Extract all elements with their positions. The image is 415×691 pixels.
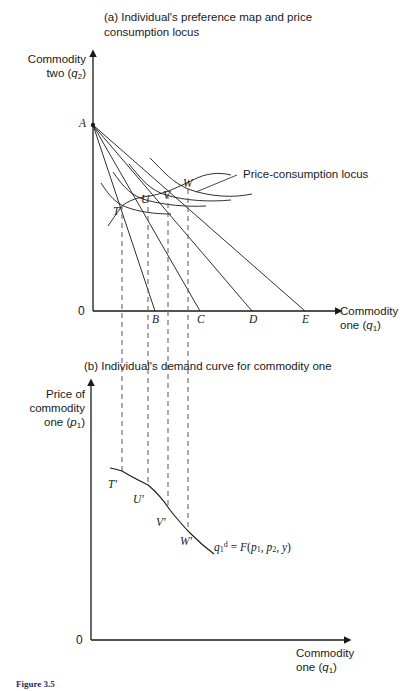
price-consumption-locus-label: Price-consumption locus (243, 168, 368, 180)
panel-b-origin-label: 0 (76, 633, 83, 647)
demand-equation-label: q1d = F(p1, p2, y) (214, 540, 291, 554)
locus-leader-line (196, 175, 237, 192)
panel-a-indifference-curves (101, 158, 252, 214)
demand-point-label-w-prime: W' (180, 535, 192, 547)
panel-a-budget-lines (93, 125, 305, 311)
panel-b-title: (b) Individual's demand curve for commod… (84, 359, 384, 374)
point-label-u: U (141, 193, 149, 205)
panel-a-origin-label: 0 (78, 304, 85, 318)
point-label-v: V (163, 189, 170, 201)
demand-point-label-v-prime: V' (156, 516, 165, 528)
x-intercept-label-b: B (152, 313, 159, 325)
x-intercept-label-e: E (302, 313, 309, 325)
point-label-w: W (183, 177, 193, 189)
point-label-t: T (113, 205, 119, 217)
panel-a-y-axis-label: Commodity two (q2) (0, 52, 86, 84)
panel-b-x-axis-line2: one (q1) (296, 660, 386, 678)
panel-b-y-axis-line1: Price of (0, 387, 85, 401)
panel-a-title: (a) Individual's preference map and pric… (104, 10, 374, 39)
figure-caption: Figure 3.5 (16, 679, 55, 689)
panel-a-x-axis-line2: one (q1) (340, 318, 415, 336)
panel-b-y-axis-label: Price of commodity one (p1) (0, 387, 85, 433)
point-a-dot (91, 123, 95, 127)
panel-b-y-axis-line3: one (p1) (0, 415, 85, 433)
panel-a-x-axis-line1: Commodity (340, 304, 415, 318)
demand-point-label-u-prime: U' (133, 493, 144, 505)
x-intercept-label-c: C (197, 313, 205, 325)
panel-a-tangency-dots (91, 123, 95, 127)
figure-container: (a) Individual's preference map and pric… (0, 0, 415, 691)
panel-a-y-axis-line2: two (q2) (0, 66, 86, 84)
panel-b-y-axis-line2: commodity (0, 401, 85, 415)
budget-line-ad (93, 125, 252, 311)
panel-a-axes (93, 56, 336, 311)
panel-b-x-axis-line1: Commodity (296, 646, 386, 660)
figure-graphics (0, 0, 415, 691)
panel-b-demand-curve (110, 468, 214, 554)
demand-point-label-t-prime: T' (108, 478, 117, 490)
panel-a-x-axis-label: Commodity one (q1) (340, 304, 415, 336)
budget-line-ab (93, 125, 155, 311)
budget-line-ae (93, 125, 305, 311)
x-intercept-label-d: D (249, 313, 257, 325)
point-label-a: A (79, 117, 86, 129)
panel-b-axes (91, 385, 345, 640)
panel-a-y-axis-line1: Commodity (0, 52, 86, 66)
panel-b-x-axis-label: Commodity one (q1) (296, 646, 386, 678)
budget-line-ac (93, 125, 200, 311)
